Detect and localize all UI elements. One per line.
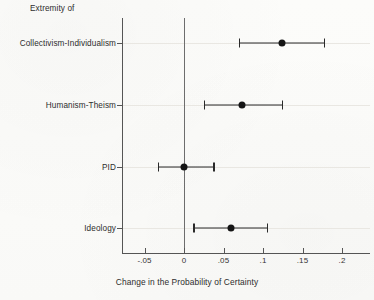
x-ticklabel-4: .15: [297, 256, 308, 265]
point-estimate-dot[interactable]: [239, 102, 246, 109]
whisker-row[interactable]: [0, 223, 374, 234]
point-estimate-dot[interactable]: [278, 40, 285, 47]
whisker-row[interactable]: [0, 100, 374, 111]
x-axis-spine: [122, 253, 370, 254]
ci-lower-cap: [193, 224, 194, 233]
x-tick-4: [303, 248, 304, 253]
ci-lower-cap: [239, 39, 240, 48]
ci-lower-cap: [204, 101, 205, 110]
x-tick-2: [224, 248, 225, 253]
x-tick-3: [263, 248, 264, 253]
x-ticklabel-5: .2: [339, 256, 346, 265]
ci-upper-cap: [213, 163, 214, 172]
y-axis-spine: [122, 18, 123, 254]
ci-lower-cap: [158, 163, 159, 172]
whisker-row[interactable]: [0, 38, 374, 49]
x-tick-1: [184, 248, 185, 253]
x-axis-title: Change in the Probability of Certainty: [0, 277, 374, 287]
whisker-row[interactable]: [0, 162, 374, 173]
point-estimate-dot[interactable]: [181, 164, 188, 171]
x-tick-0: [145, 248, 146, 253]
x-tick-5: [342, 248, 343, 253]
x-ticklabel-2: .05: [218, 256, 229, 265]
ci-upper-cap: [267, 224, 268, 233]
ci-upper-cap: [324, 39, 325, 48]
ci-upper-cap: [282, 101, 283, 110]
y-axis-group-header: Extremity of: [30, 4, 74, 13]
x-ticklabel-0: -.05: [137, 256, 151, 265]
forest-plot-figure: Extremity of Collectivism-Individualism …: [0, 0, 374, 300]
point-estimate-dot[interactable]: [227, 225, 234, 232]
x-ticklabel-1: 0: [182, 256, 187, 265]
zero-reference-line: [184, 18, 185, 253]
x-ticklabel-3: .1: [260, 256, 267, 265]
